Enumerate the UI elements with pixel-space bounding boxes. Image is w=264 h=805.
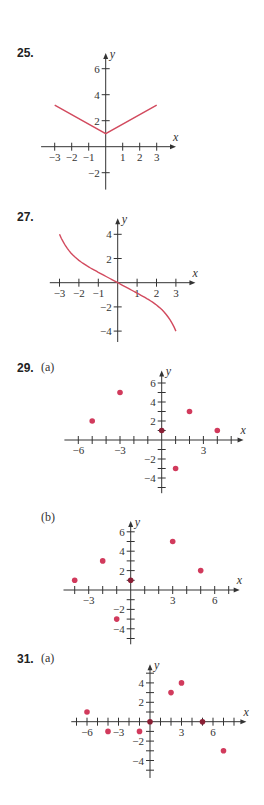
y-tick-label: −4 [100, 325, 112, 337]
x-tick-label: −6 [81, 726, 93, 738]
y-tick-label: 4 [150, 396, 156, 408]
x-tick-label: 6 [212, 594, 218, 606]
x-tick-label: 3 [154, 151, 160, 163]
y-axis-arrow-icon [103, 53, 108, 59]
x-axis-label: x [236, 573, 243, 587]
x-tick-label: 6 [210, 726, 216, 738]
x-tick-label: −6 [72, 444, 84, 456]
y-tick-label: −2 [132, 735, 144, 747]
x-axis-label: x [240, 423, 247, 437]
data-point [72, 578, 78, 584]
x-axis-arrow-icon [238, 438, 244, 443]
data-point [200, 719, 206, 725]
data-point [89, 418, 95, 424]
data-point [159, 428, 165, 434]
y-tick-label: −2 [144, 453, 156, 465]
x-axis-arrow-icon [240, 719, 246, 724]
y-tick-label: 6 [94, 63, 100, 75]
data-point [187, 409, 193, 415]
y-axis-label: y [153, 658, 160, 672]
y-tick-label: −4 [144, 472, 156, 484]
data-point [173, 466, 179, 472]
y-axis-arrow-icon [159, 370, 164, 376]
y-tick-label: 6 [150, 377, 156, 389]
data-point [84, 709, 90, 715]
x-axis-arrow-icon [189, 280, 195, 285]
y-axis-arrow-icon [128, 521, 133, 527]
chart-31a: xy−6−33642−2−4 [71, 658, 249, 778]
y-axis-arrow-icon [148, 664, 153, 670]
x-axis-label: x [191, 266, 198, 280]
data-point [128, 578, 134, 584]
y-tick-label: 4 [139, 677, 145, 689]
x-tick-label: −2 [66, 151, 78, 163]
x-tick-label: −2 [73, 287, 85, 299]
x-tick-label: 3 [179, 726, 185, 738]
y-tick-label: 2 [119, 565, 125, 577]
charts-canvas: xy−3−2−1123642−2xy−3−2−112342−2−4xy−6−33… [0, 0, 264, 805]
y-axis-label: y [109, 47, 116, 61]
x-axis-arrow-icon [170, 144, 176, 149]
y-tick-label: 2 [150, 415, 156, 427]
chart-29b: xy−336642−2−4 [64, 515, 243, 644]
chart-25: xy−3−2−1123642−2 [41, 47, 179, 190]
chart-29a: xy−6−33642−2−4 [64, 364, 246, 493]
y-tick-label: 2 [94, 115, 100, 127]
x-tick-label: −3 [114, 444, 126, 456]
x-axis-label: x [242, 705, 249, 719]
data-point [170, 539, 176, 545]
y-tick-label: −2 [88, 167, 100, 179]
x-tick-label: 3 [201, 444, 207, 456]
data-point [117, 390, 123, 396]
data-point [221, 748, 227, 754]
y-axis-label: y [165, 364, 172, 378]
data-point [105, 729, 111, 735]
y-tick-label: 2 [139, 696, 145, 708]
y-tick-label: 6 [119, 526, 125, 538]
x-tick-label: 2 [154, 287, 160, 299]
x-axis-arrow-icon [234, 588, 240, 593]
data-point [100, 558, 106, 564]
y-axis-label: y [134, 515, 141, 529]
y-tick-label: 4 [119, 545, 125, 557]
y-axis-arrow-icon [115, 218, 120, 224]
y-tick-label: 4 [106, 228, 112, 240]
x-axis-label: x [172, 130, 179, 144]
y-tick-label: −4 [113, 623, 125, 635]
chart-27: xy−3−2−112342−2−4 [50, 212, 199, 342]
y-tick-label: 2 [106, 253, 112, 265]
x-tick-label: 1 [120, 151, 126, 163]
data-point [114, 616, 120, 622]
y-tick-label: −2 [100, 301, 112, 313]
y-tick-label: 4 [94, 89, 100, 101]
data-point [179, 680, 185, 686]
data-point [168, 690, 174, 696]
x-tick-label: 2 [137, 151, 143, 163]
y-tick-label: −4 [132, 755, 144, 767]
y-axis-label: y [121, 212, 128, 226]
x-tick-label: 3 [173, 287, 179, 299]
x-tick-label: −1 [92, 287, 104, 299]
x-tick-label: −3 [83, 594, 95, 606]
data-point [137, 729, 143, 735]
x-tick-label: −1 [83, 151, 95, 163]
x-tick-label: −3 [113, 726, 125, 738]
data-point [198, 568, 204, 574]
y-tick-label: −2 [113, 603, 125, 615]
data-point [147, 719, 153, 725]
x-tick-label: 3 [170, 594, 176, 606]
data-point [215, 428, 221, 434]
x-tick-label: −3 [49, 151, 61, 163]
x-tick-label: −3 [54, 287, 66, 299]
